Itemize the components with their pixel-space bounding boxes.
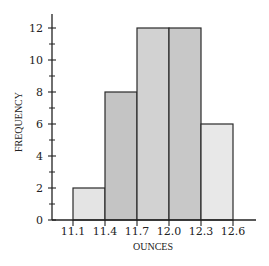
y-tick-label: 2 [36,182,43,195]
x-tick-label: 12.3 [189,225,214,238]
histogram-bar [73,188,105,220]
y-tick-label: 6 [36,118,43,131]
histogram-bar [201,124,233,220]
y-tick-label: 8 [36,86,43,99]
y-tick-label: 12 [29,22,43,35]
histogram-chart: 024681012 11.111.411.712.012.312.6 FREQU… [0,0,269,266]
x-tick-label: 11.1 [61,225,86,238]
x-tick-label: 11.4 [93,225,118,238]
histogram-bar [137,28,169,220]
x-tick-label: 11.7 [125,225,150,238]
x-tick-label: 12.0 [157,225,182,238]
y-tick-label: 0 [36,214,43,227]
y-tick-label: 4 [36,150,43,163]
y-axis-title: FREQUENCY [13,92,24,152]
x-axis-title: OUNCES [133,241,173,252]
histogram-bar [169,28,201,220]
y-tick-label: 10 [29,54,43,67]
x-axis-ticks: 11.111.411.712.012.312.6 [61,220,246,238]
histogram-bar [105,92,137,220]
bars-group [73,28,233,220]
x-tick-label: 12.6 [221,225,246,238]
